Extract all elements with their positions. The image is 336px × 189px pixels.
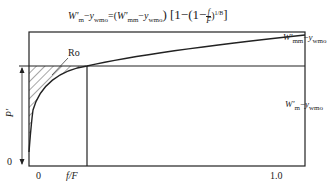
x-one-label: 1.0 xyxy=(270,171,283,181)
p-axis-label: P' xyxy=(5,109,15,117)
eq-lhs-sub: m xyxy=(78,16,83,24)
eq-tail: ) [1−(1− xyxy=(162,7,206,22)
eq-equals: =( xyxy=(108,10,117,21)
x-fF-label: f/F xyxy=(66,171,78,181)
rt-w: W' xyxy=(283,32,292,42)
p-arrow-down xyxy=(20,159,25,165)
eq-rhs-w: W' xyxy=(117,10,127,21)
x-zero-label: 0 xyxy=(36,171,41,181)
eq-exp-sup: 1/B xyxy=(215,10,224,16)
eq-rhs-sub: mm xyxy=(127,16,138,24)
eq-rhs-ysub: wmo xyxy=(148,16,162,24)
y-zero-label: 0 xyxy=(7,157,12,167)
right-mid-label: W'm−ywmo xyxy=(285,100,323,112)
eq-lhs-ysub: wmo xyxy=(94,16,108,24)
rt-sub: mm xyxy=(292,37,303,45)
rt-ysub: wmo xyxy=(312,37,326,45)
rm-ysub: wmo xyxy=(309,104,323,112)
eq-lhs-w: W' xyxy=(68,10,78,21)
eq-close: ] xyxy=(223,7,227,22)
diagram-canvas xyxy=(0,0,336,189)
p-arrow-up xyxy=(20,67,25,73)
right-top-label: W'mm−ywmo xyxy=(283,33,326,45)
hatched-region xyxy=(29,66,87,152)
equation: W'm−ywmo=(W'mm−ywmo) [1−(1−fF)1/B] xyxy=(68,8,228,25)
rm-w: W' xyxy=(285,99,294,109)
ro-label: Ro xyxy=(68,48,80,58)
rm-sub: m xyxy=(294,104,299,112)
